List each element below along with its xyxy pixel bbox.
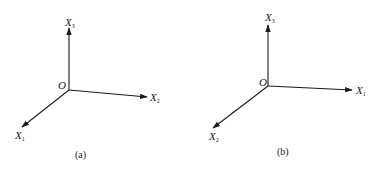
axis-label-x2: X2	[208, 130, 219, 143]
panel-b: X3 X1 X2 O (b)	[208, 11, 366, 158]
axis-x1-arrow	[268, 86, 352, 90]
axis-x2-arrow	[213, 86, 268, 128]
axis-label-x1: X1	[14, 129, 25, 142]
panel-caption: (a)	[75, 149, 86, 161]
origin-label: O	[259, 76, 267, 88]
panel-caption: (b)	[277, 146, 289, 158]
axis-label-x3: X3	[64, 16, 75, 29]
panel-a: X3 X2 X1 O (a)	[14, 16, 160, 161]
coordinate-systems-diagram: X3 X2 X1 O (a) X3 X1 X2 O (b)	[0, 0, 372, 173]
origin-label: O	[58, 79, 66, 91]
axis-label-x3: X3	[264, 11, 275, 24]
axis-x2-arrow	[69, 90, 147, 97]
axis-label-x2: X2	[149, 91, 160, 104]
axis-x1-arrow	[22, 90, 69, 127]
axis-label-x1: X1	[355, 84, 366, 97]
